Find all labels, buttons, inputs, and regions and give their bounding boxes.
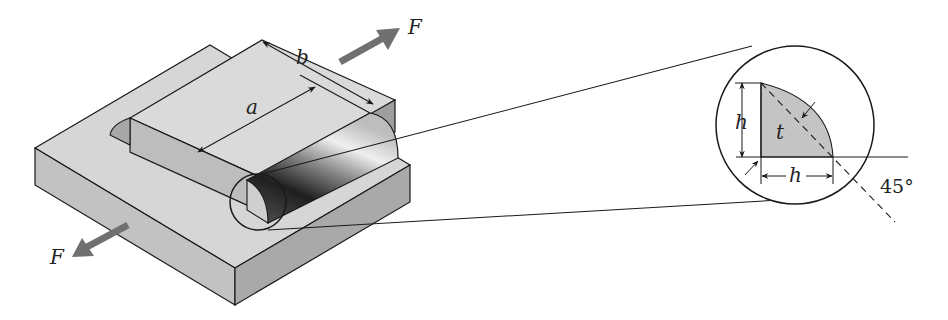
label-b: b — [296, 45, 309, 69]
weld-diagram: b a F F h h — [0, 0, 948, 320]
label-h-vertical: h — [735, 110, 748, 134]
label-h-horizontal: h — [789, 163, 802, 187]
label-force-bottom: F — [49, 245, 65, 269]
label-t: t — [776, 120, 785, 144]
detail-view: h h t 45° — [716, 46, 914, 222]
force-arrow-top: F — [340, 15, 423, 62]
label-force-top: F — [407, 15, 423, 39]
force-arrow-bottom: F — [49, 225, 128, 269]
label-a: a — [246, 95, 258, 119]
label-angle: 45° — [880, 175, 914, 197]
